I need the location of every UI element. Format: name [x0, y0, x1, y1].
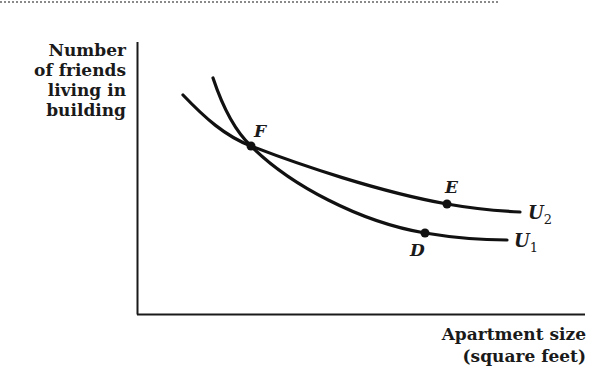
curve-u2: [183, 95, 520, 212]
curve-u2-label-main: U: [528, 202, 545, 223]
x-axis-label: Apartment size (square feet): [442, 323, 586, 367]
point-e-label: E: [444, 177, 459, 197]
indifference-curve-diagram: F E D U2 U1: [0, 0, 613, 378]
curve-u1-label: U1: [514, 230, 538, 255]
curve-u1-label-main: U: [514, 230, 531, 251]
x-axis-label-line-2: (square feet): [442, 345, 586, 367]
point-d-marker: [421, 229, 430, 238]
point-e-marker: [443, 200, 452, 209]
curve-u1: [213, 78, 507, 240]
point-f-marker: [247, 142, 256, 151]
curve-u2-label: U2: [528, 202, 552, 227]
x-axis-label-line-1: Apartment size: [442, 323, 586, 345]
curve-u2-label-sub: 2: [544, 212, 552, 227]
point-d-label: D: [409, 240, 425, 260]
curve-u1-label-sub: 1: [530, 240, 538, 255]
point-f-label: F: [253, 121, 268, 141]
